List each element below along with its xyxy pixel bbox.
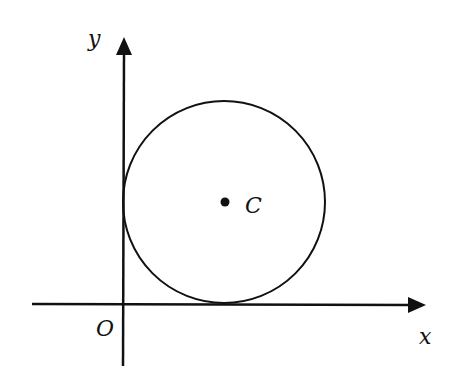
center-label: C [245, 193, 262, 218]
origin-label: O [96, 316, 114, 341]
x-axis-arrow-icon [408, 297, 426, 313]
center-point [221, 198, 230, 207]
y-axis-label: y [87, 26, 101, 51]
x-axis-label: x [419, 324, 432, 349]
diagram-canvas: y x O C [0, 0, 451, 389]
x-axis [32, 297, 426, 313]
y-axis-arrow-icon [116, 37, 132, 55]
